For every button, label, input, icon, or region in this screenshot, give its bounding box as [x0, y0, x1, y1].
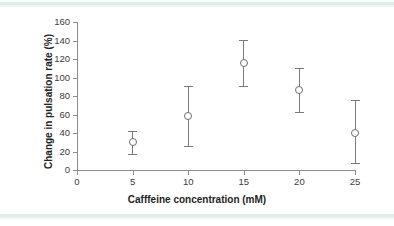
error-cap-upper	[239, 40, 248, 41]
error-cap-upper	[351, 100, 360, 101]
error-cap-lower	[128, 154, 137, 155]
error-cap-lower	[184, 146, 193, 147]
x-tick-label: 0	[57, 177, 97, 187]
figure-top-rule-soft	[0, 5, 394, 7]
data-point-marker	[351, 129, 359, 137]
error-cap-upper	[184, 86, 193, 87]
x-tick	[244, 171, 245, 175]
x-tick-label: 20	[279, 177, 319, 187]
x-tick-label: 5	[113, 177, 153, 187]
figure-container: 020406080100120140160 0510152025 Change …	[0, 0, 394, 226]
error-cap-lower	[295, 112, 304, 113]
figure-bottom-rule-soft	[0, 217, 394, 219]
x-tick-label: 15	[224, 177, 264, 187]
data-point-marker	[129, 138, 137, 146]
x-tick	[133, 171, 134, 175]
y-axis-title: Change in pulsation rate (%)	[43, 27, 54, 177]
x-tick-label: 25	[335, 177, 375, 187]
x-tick	[188, 171, 189, 175]
plot-area	[77, 22, 355, 170]
data-point-marker	[240, 59, 248, 67]
x-tick	[299, 171, 300, 175]
y-tick-label: 160	[28, 17, 70, 27]
error-cap-upper	[128, 131, 137, 132]
error-cap-lower	[351, 163, 360, 164]
x-tick	[77, 171, 78, 175]
x-tick	[355, 171, 356, 175]
x-axis-line	[77, 170, 356, 171]
x-tick-label: 10	[168, 177, 208, 187]
error-cap-lower	[239, 86, 248, 87]
error-cap-upper	[295, 68, 304, 69]
x-axis-title: Cafffeine concentration (mM)	[0, 194, 394, 205]
